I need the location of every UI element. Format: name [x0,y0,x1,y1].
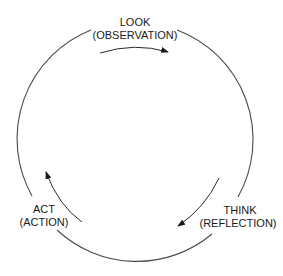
node-look-subtitle: (OBSERVATION) [93,29,178,41]
node-act-title: ACT [33,203,55,215]
node-look: LOOK (OBSERVATION) [93,16,178,41]
outer-ring-bottom-arc [57,230,212,261]
node-think-subtitle: (REFLECTION) [200,217,277,229]
cycle-diagram: LOOK (OBSERVATION) THINK (REFLECTION) AC… [0,0,283,276]
node-act-subtitle: (ACTION) [20,216,69,228]
arrow-look-to-think [100,47,168,53]
node-think-title: THINK [224,204,258,216]
node-look-title: LOOK [120,16,151,28]
node-act: ACT (ACTION) [20,203,69,228]
node-think: THINK (REFLECTION) [200,204,277,229]
outer-ring-right-arc [177,30,253,197]
outer-ring-left-arc [17,30,91,196]
